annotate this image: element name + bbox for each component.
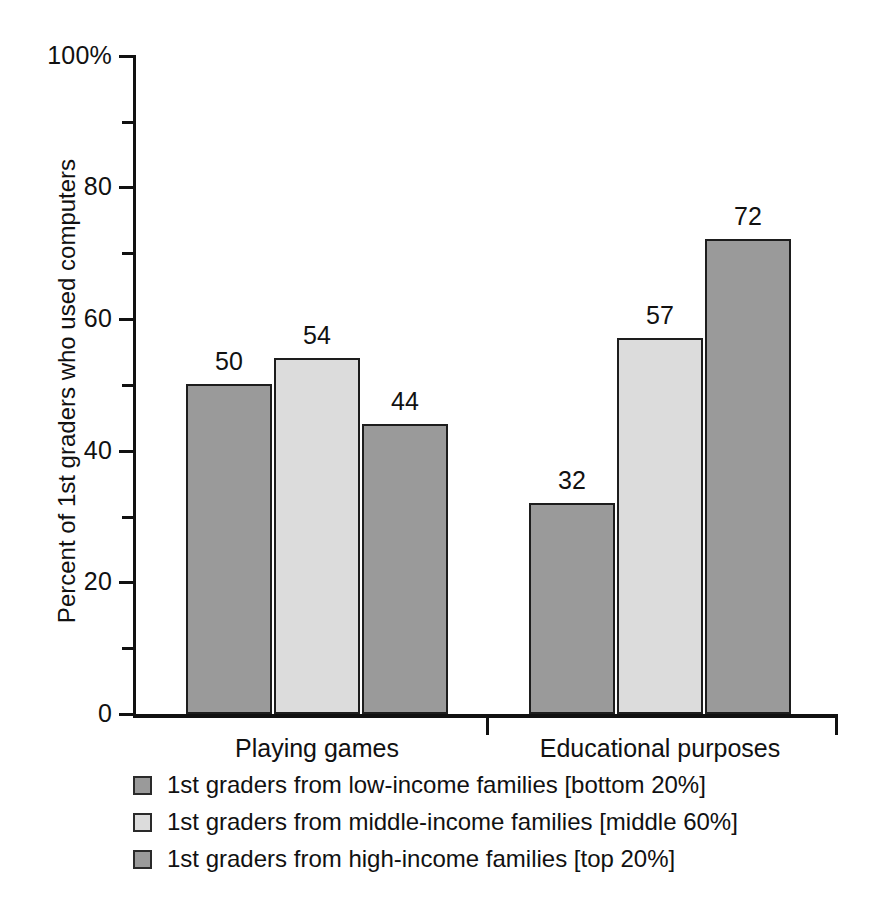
y-tick-label-60: 60 xyxy=(12,306,112,331)
legend-item-low-income: 1st graders from low-income families [bo… xyxy=(133,768,873,802)
bar-chart: Percent of 1st graders who used computer… xyxy=(0,0,892,904)
y-tick-40 xyxy=(119,450,134,453)
y-tick-label-80: 80 xyxy=(12,174,112,199)
legend-swatch-middle-income-icon xyxy=(133,813,152,832)
y-tick-label-40: 40 xyxy=(12,438,112,463)
x-tick-group-separator xyxy=(486,717,489,735)
y-tick-label-100: 100% xyxy=(12,43,112,68)
y-tick-label-20: 20 xyxy=(12,569,112,594)
y-tick-70 xyxy=(122,252,134,255)
bar-value-playing-games-middle-income: 54 xyxy=(274,322,360,349)
x-category-label-educational-purposes: Educational purposes xyxy=(529,733,791,763)
bar-playing-games-middle-income xyxy=(274,358,360,714)
legend-label-high-income: 1st graders from high-income families [t… xyxy=(167,845,675,873)
legend-item-middle-income: 1st graders from middle-income families … xyxy=(133,805,873,839)
legend-swatch-high-income-icon xyxy=(133,850,152,869)
bar-value-educational-purposes-low-income: 32 xyxy=(529,467,615,494)
y-tick-20 xyxy=(119,581,134,584)
y-tick-10 xyxy=(122,647,134,650)
bar-playing-games-high-income xyxy=(362,424,448,714)
y-tick-60 xyxy=(119,318,134,321)
chart-legend: 1st graders from low-income families [bo… xyxy=(133,768,873,879)
bar-educational-purposes-high-income xyxy=(705,239,791,714)
bar-value-educational-purposes-high-income: 72 xyxy=(705,203,791,230)
y-tick-label-0: 0 xyxy=(12,701,112,726)
y-tick-80 xyxy=(119,186,134,189)
bar-educational-purposes-middle-income xyxy=(617,338,703,714)
x-category-label-playing-games: Playing games xyxy=(186,733,448,763)
y-tick-0 xyxy=(119,713,134,716)
bar-value-playing-games-high-income: 44 xyxy=(362,388,448,415)
bar-value-playing-games-low-income: 50 xyxy=(186,348,272,375)
bar-playing-games-low-income xyxy=(186,384,272,714)
y-tick-100 xyxy=(119,55,134,58)
legend-label-middle-income: 1st graders from middle-income families … xyxy=(167,808,738,836)
bar-value-educational-purposes-middle-income: 57 xyxy=(617,302,703,329)
legend-item-high-income: 1st graders from high-income families [t… xyxy=(133,842,873,876)
legend-label-low-income: 1st graders from low-income families [bo… xyxy=(167,771,706,799)
y-tick-30 xyxy=(122,516,134,519)
legend-swatch-low-income-icon xyxy=(133,776,152,795)
y-tick-50 xyxy=(122,384,134,387)
bar-educational-purposes-low-income xyxy=(529,503,615,714)
x-tick-axis-end xyxy=(835,717,838,735)
y-tick-90 xyxy=(122,121,134,124)
